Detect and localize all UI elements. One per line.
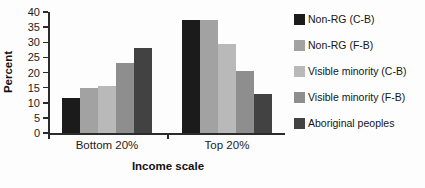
bar-top-20--non-rg-f-b- (200, 20, 218, 133)
legend-item-visible-minority-c-b-: Visible minority (C-B) (294, 65, 406, 77)
bar-chart-figure: Percent 0510152025303540 Bottom 20% Top … (0, 0, 425, 188)
legend-item-non-rg-c-b-: Non-RG (C-B) (294, 13, 375, 25)
y-tick-label-10: 10 (0, 97, 40, 109)
bar-bottom-20--aboriginal-peoples (134, 48, 152, 133)
legend: Non-RG (C-B)Non-RG (F-B)Visible minority… (294, 0, 425, 135)
category-label-top-20: Top 20% (182, 139, 272, 151)
bar-bottom-20--visible-minority-c-b- (98, 86, 116, 133)
legend-label: Visible minority (C-B) (308, 65, 406, 77)
y-tick-label-25: 25 (0, 51, 40, 63)
y-tick-label-40: 40 (0, 6, 40, 18)
y-tick-label-15: 15 (0, 82, 40, 94)
y-tick-label-20: 20 (0, 67, 40, 79)
legend-swatch-icon (294, 118, 305, 129)
legend-swatch-icon (294, 40, 305, 51)
legend-label: Non-RG (C-B) (308, 13, 375, 25)
y-tick-mark-35 (43, 26, 48, 28)
legend-item-non-rg-f-b-: Non-RG (F-B) (294, 39, 373, 51)
legend-swatch-icon (294, 92, 305, 103)
x-tick-mark-0 (48, 133, 50, 139)
bar-top-20--visible-minority-f-b- (236, 71, 254, 133)
bar-bottom-20--non-rg-c-b- (62, 98, 80, 133)
bar-top-20--non-rg-c-b- (182, 20, 200, 133)
legend-swatch-icon (294, 66, 305, 77)
y-axis-line (48, 12, 50, 133)
y-tick-label-0: 0 (0, 127, 40, 139)
y-tick-mark-20 (43, 72, 48, 74)
category-label-bottom-20: Bottom 20% (62, 139, 152, 151)
bar-bottom-20--non-rg-f-b- (80, 88, 98, 133)
legend-item-visible-minority-f-b-: Visible minority (F-B) (294, 91, 405, 103)
legend-label: Visible minority (F-B) (308, 91, 405, 103)
x-axis-title: Income scale (110, 160, 226, 172)
bar-top-20--aboriginal-peoples (254, 94, 272, 133)
y-tick-mark-30 (43, 42, 48, 44)
bar-top-20--visible-minority-c-b- (218, 44, 236, 133)
legend-label: Non-RG (F-B) (308, 39, 373, 51)
y-tick-mark-10 (43, 102, 48, 104)
legend-item-aboriginal-peoples: Aboriginal peoples (294, 117, 394, 129)
y-tick-label-30: 30 (0, 36, 40, 48)
y-tick-label-35: 35 (0, 21, 40, 33)
y-tick-label-5: 5 (0, 112, 40, 124)
bar-bottom-20--visible-minority-f-b- (116, 63, 134, 133)
x-tick-mark-1 (167, 133, 169, 139)
y-tick-mark-40 (43, 11, 48, 13)
y-tick-mark-25 (43, 57, 48, 59)
legend-swatch-icon (294, 14, 305, 25)
legend-label: Aboriginal peoples (308, 117, 394, 129)
y-tick-mark-15 (43, 87, 48, 89)
y-tick-mark-5 (43, 117, 48, 119)
